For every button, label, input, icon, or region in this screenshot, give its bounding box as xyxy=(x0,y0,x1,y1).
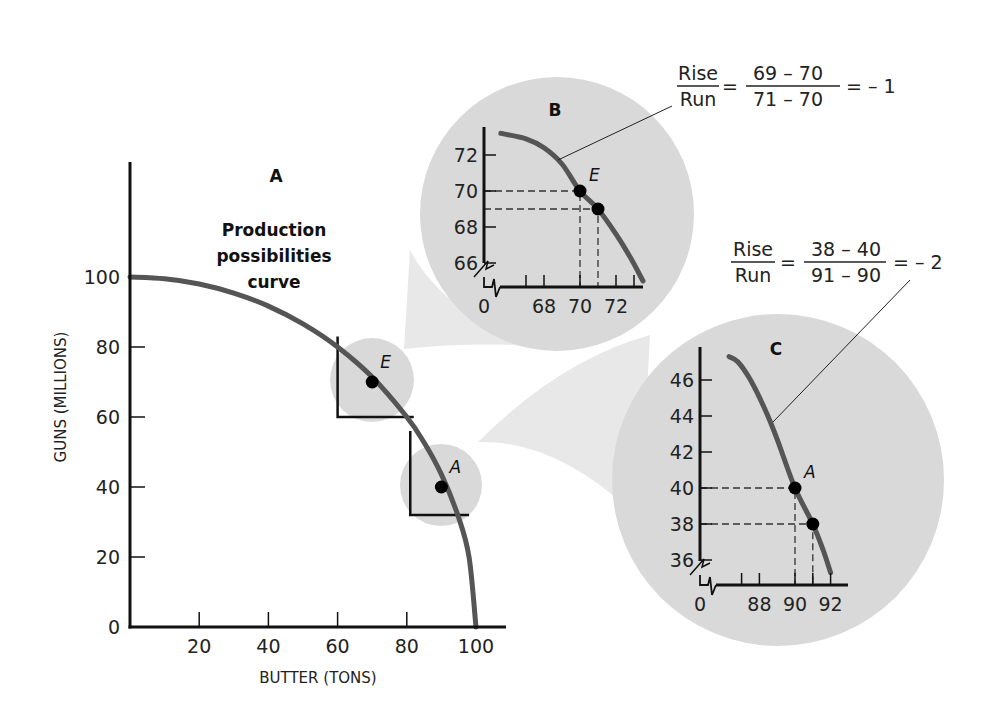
y-tick-label: 100 xyxy=(84,266,120,288)
inset-y-tick-label: 38 xyxy=(670,513,694,535)
eq-c-result: = – 2 xyxy=(893,251,943,273)
eq-b-numerator: 69 – 70 xyxy=(753,62,823,84)
eq-b-rise: Rise xyxy=(678,62,718,84)
eq-b-run: Run xyxy=(680,88,716,110)
inset-x-tick-label: 70 xyxy=(568,295,592,317)
x-tick-label: 100 xyxy=(458,635,494,657)
inset-y-tick-label: 68 xyxy=(454,216,478,238)
eq-c-equals: = xyxy=(780,251,796,273)
panel-a-label: A xyxy=(269,166,283,186)
eq-c-run: Run xyxy=(735,264,771,286)
y-tick-label: 40 xyxy=(96,476,120,498)
inset-x-tick-label: 88 xyxy=(747,593,771,615)
inset-y-tick-label: 72 xyxy=(454,144,478,166)
eq-c-denominator: 91 – 90 xyxy=(811,264,881,286)
inset-y-tick-label: 46 xyxy=(670,369,694,391)
eq-c-rise: Rise xyxy=(733,238,773,260)
y-tick-label: 80 xyxy=(96,336,120,358)
inset-x-tick-label: 90 xyxy=(783,593,807,615)
y-axis-title: GUNS (MILLIONS) xyxy=(52,332,70,463)
magnifier-circle-c xyxy=(612,314,944,646)
x-tick-label: 60 xyxy=(326,635,350,657)
x-axis-title: BUTTER (TONS) xyxy=(259,669,376,687)
point-label-a: A xyxy=(448,457,461,477)
point-a xyxy=(435,481,448,494)
inset-point xyxy=(806,518,819,531)
inset-x-tick-label: 0 xyxy=(478,295,490,317)
curve-annotation-line-2: possibilities xyxy=(216,246,331,266)
eq-b-result: = – 1 xyxy=(846,75,896,97)
inset-x-tick-label: 72 xyxy=(604,295,628,317)
slope-equation-b: Rise Run = 69 – 70 71 – 70 = – 1 xyxy=(677,62,896,110)
panel-c-label: C xyxy=(770,339,782,359)
curve-annotation-line-3: curve xyxy=(247,272,300,292)
point-label-e: E xyxy=(380,352,391,372)
inset-point xyxy=(789,482,802,495)
inset-x-tick-label: 0 xyxy=(694,593,706,615)
inset-x-tick-label: 68 xyxy=(532,295,556,317)
curve-annotation-line-1: Production xyxy=(222,220,327,240)
inset-y-tick-label: 44 xyxy=(670,405,694,427)
point-e xyxy=(366,376,379,389)
inset-y-tick-label: 40 xyxy=(670,477,694,499)
inset-y-tick-label: 70 xyxy=(454,180,478,202)
y-tick-label: 60 xyxy=(96,406,120,428)
inset-x-tick-label: 92 xyxy=(819,593,843,615)
x-tick-label: 20 xyxy=(187,635,211,657)
inset-point xyxy=(592,203,605,216)
inset-y-tick-label: 42 xyxy=(670,441,694,463)
x-tick-label: 40 xyxy=(256,635,280,657)
ppc-figure: A Production possibilities curve BUTTER … xyxy=(0,0,994,725)
inset-y-tick-label: 36 xyxy=(670,549,694,571)
x-tick-label: 80 xyxy=(395,635,419,657)
inset-point-label: E xyxy=(589,165,600,185)
y-tick-label: 20 xyxy=(96,546,120,568)
panel-b-label: B xyxy=(549,100,562,120)
y-tick-label: 0 xyxy=(108,616,120,638)
magnifier-background xyxy=(330,77,944,646)
inset-point xyxy=(574,185,587,198)
eq-b-denominator: 71 – 70 xyxy=(753,88,823,110)
eq-b-equals: = xyxy=(722,75,738,97)
eq-c-numerator: 38 – 40 xyxy=(811,238,881,260)
inset-point-label: A xyxy=(803,462,816,482)
inset-y-tick-label: 66 xyxy=(454,252,478,274)
slope-equation-c: Rise Run = 38 – 40 91 – 90 = – 2 xyxy=(731,238,943,286)
